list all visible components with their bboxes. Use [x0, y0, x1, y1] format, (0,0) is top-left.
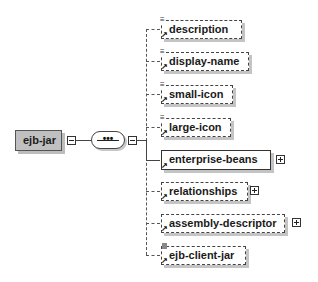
connector-line — [137, 140, 146, 141]
root-element-ejb-jar[interactable]: ejb-jar — [15, 130, 62, 151]
element-relationships[interactable]: relationships ↗ — [161, 182, 248, 201]
expand-toggle-assembly-descriptor[interactable] — [292, 218, 301, 227]
reference-arrow-icon: ↗ — [161, 63, 168, 71]
reference-arrow-icon: ↗ — [161, 225, 168, 233]
collapse-toggle-root[interactable] — [67, 136, 76, 145]
branch-small-icon — [146, 94, 160, 95]
reference-arrow-icon: ↗ — [161, 193, 168, 201]
branch-assembly-descriptor — [146, 223, 160, 224]
expand-toggle-relationships[interactable] — [250, 186, 259, 195]
documentation-icon: ≡ — [160, 48, 165, 56]
element-small-icon[interactable]: ≡ small-icon ↗ — [161, 85, 233, 104]
reference-arrow-icon: ↗ — [161, 162, 168, 170]
documentation-icon — [162, 243, 167, 249]
element-ejb-client-jar[interactable]: ejb-client-jar ↗ — [161, 246, 246, 265]
element-description[interactable]: ≡ description ↗ — [161, 20, 242, 39]
element-label: enterprise-beans — [169, 153, 258, 165]
element-assembly-descriptor[interactable]: assembly-descriptor ↗ — [161, 214, 285, 233]
element-display-name[interactable]: ≡ display-name ↗ — [161, 52, 249, 71]
root-element-label: ejb-jar — [23, 134, 56, 146]
documentation-icon: ≡ — [160, 81, 165, 89]
collapse-toggle-sequence[interactable] — [128, 136, 137, 145]
branch-enterprise-beans — [146, 160, 160, 161]
documentation-icon: ≡ — [160, 114, 165, 122]
reference-arrow-icon: ↗ — [161, 31, 168, 39]
element-label: large-icon — [169, 121, 222, 133]
connector-line — [76, 140, 91, 141]
connector-trunk-solid — [146, 140, 147, 161]
reference-arrow-icon: ↗ — [161, 257, 168, 265]
branch-large-icon — [146, 127, 160, 128]
expand-toggle-enterprise-beans[interactable] — [276, 155, 285, 164]
branch-ejb-client-jar — [146, 255, 160, 256]
element-label: relationships — [169, 185, 237, 197]
element-label: small-icon — [169, 88, 223, 100]
branch-display-name — [146, 61, 160, 62]
element-large-icon[interactable]: ≡ large-icon ↗ — [161, 118, 231, 137]
element-label: description — [169, 23, 228, 35]
element-label: display-name — [169, 55, 239, 67]
sequence-compositor[interactable]: ••• — [91, 131, 125, 149]
element-label: ejb-client-jar — [169, 249, 234, 261]
element-enterprise-beans[interactable]: enterprise-beans ↗ — [161, 150, 271, 170]
documentation-icon: ≡ — [160, 16, 165, 24]
reference-arrow-icon: ↗ — [161, 96, 168, 104]
branch-relationships — [146, 191, 160, 192]
element-label: assembly-descriptor — [169, 217, 277, 229]
branch-description — [146, 29, 160, 30]
sequence-dots-icon: ••• — [92, 133, 124, 145]
reference-arrow-icon: ↗ — [161, 129, 168, 137]
